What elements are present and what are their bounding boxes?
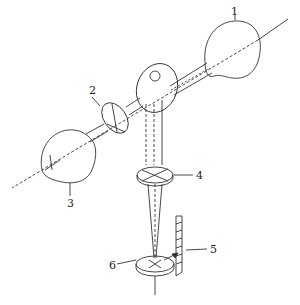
label-2: 2	[89, 85, 96, 96]
central-aperture	[150, 71, 160, 81]
label-1: 1	[231, 6, 238, 17]
leader-5	[186, 249, 207, 250]
sphere-3	[41, 130, 95, 183]
leader-2	[92, 97, 100, 106]
leader-6	[117, 260, 136, 264]
optical-diagram	[0, 0, 300, 305]
label-6: 6	[109, 260, 116, 271]
optical-axis-solid	[258, 19, 288, 40]
label-4: 4	[196, 170, 203, 181]
sphere-1	[205, 21, 261, 78]
label-3: 3	[67, 198, 74, 209]
optical-axis-dashed	[12, 40, 258, 188]
label-5: 5	[210, 244, 217, 255]
